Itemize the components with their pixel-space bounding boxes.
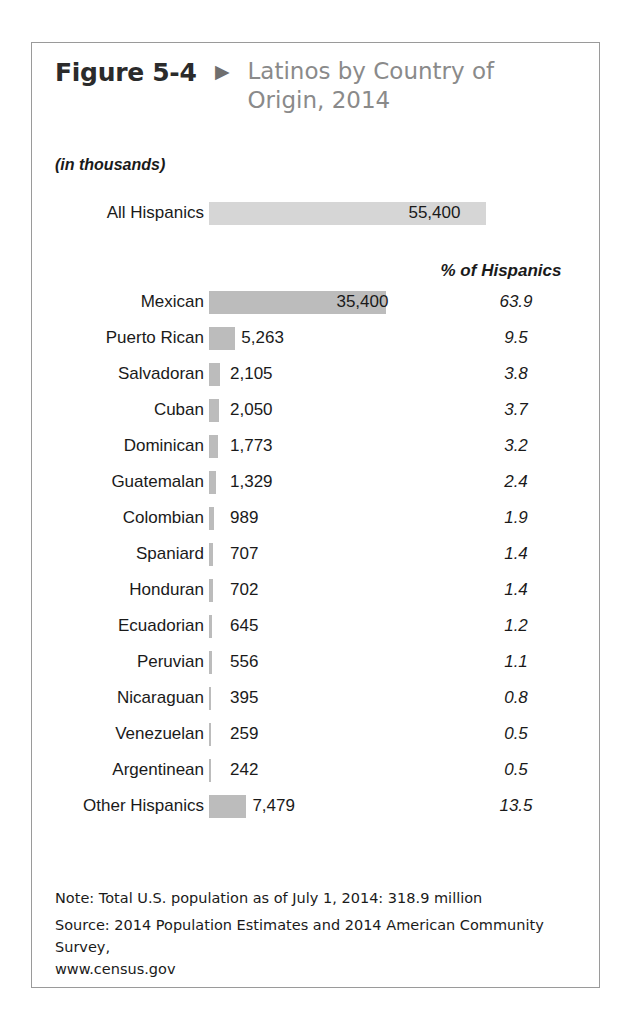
chart-row: Puerto Rican5,2639.5 (32, 323, 599, 353)
chart-row: Colombian9891.9 (32, 503, 599, 533)
row-value: 707 (230, 539, 258, 569)
row-bar (209, 363, 220, 386)
row-label: Guatemalan (32, 467, 204, 497)
footnote-source: Source: 2014 Population Estimates and 20… (55, 915, 579, 959)
row-label: Puerto Rican (32, 323, 204, 353)
row-value: 556 (230, 647, 258, 677)
row-bar (209, 687, 211, 710)
row-value: 55,400 (408, 198, 460, 228)
row-value: 1,329 (230, 467, 273, 497)
chart-row: Honduran7021.4 (32, 575, 599, 605)
chart-row: Ecuadorian6451.2 (32, 611, 599, 641)
row-pct: 3.7 (452, 395, 580, 425)
row-label: Spaniard (32, 539, 204, 569)
row-value: 989 (230, 503, 258, 533)
footnotes: Note: Total U.S. population as of July 1… (55, 888, 579, 986)
row-label: Argentinean (32, 755, 204, 785)
bar-chart: All Hispanics55,400Mexican35,40063.9Puer… (32, 43, 599, 987)
row-label: Other Hispanics (32, 791, 204, 821)
row-value: 35,400 (336, 287, 388, 317)
row-pct: 3.8 (452, 359, 580, 389)
row-bar (209, 723, 211, 746)
row-bar (209, 543, 213, 566)
row-value: 702 (230, 575, 258, 605)
row-value: 5,263 (241, 323, 284, 353)
chart-row: Guatemalan1,3292.4 (32, 467, 599, 497)
row-pct: 1.1 (452, 647, 580, 677)
row-label: Nicaraguan (32, 683, 204, 713)
row-pct: 3.2 (452, 431, 580, 461)
row-value: 242 (230, 755, 258, 785)
row-bar (209, 795, 246, 818)
row-label: All Hispanics (32, 198, 204, 228)
chart-row: Nicaraguan3950.8 (32, 683, 599, 713)
row-label: Dominican (32, 431, 204, 461)
chart-row: Spaniard7071.4 (32, 539, 599, 569)
footnote-source-url: www.census.gov (55, 959, 579, 981)
row-pct: 0.5 (452, 719, 580, 749)
row-bar (209, 471, 216, 494)
row-value: 1,773 (230, 431, 273, 461)
chart-row: Dominican1,7733.2 (32, 431, 599, 461)
row-pct: 1.9 (452, 503, 580, 533)
row-value: 2,050 (230, 395, 273, 425)
figure-frame: Figure 5-4 ▶ Latinos by Country of Origi… (31, 42, 600, 988)
chart-row: Other Hispanics7,47913.5 (32, 791, 599, 821)
row-value: 395 (230, 683, 258, 713)
row-value: 259 (230, 719, 258, 749)
chart-row: Peruvian5561.1 (32, 647, 599, 677)
row-label: Cuban (32, 395, 204, 425)
chart-row: Mexican35,40063.9 (32, 287, 599, 317)
row-bar (209, 507, 214, 530)
row-bar (209, 615, 212, 638)
row-pct: 1.2 (452, 611, 580, 641)
row-pct: 1.4 (452, 575, 580, 605)
row-pct: 0.5 (452, 755, 580, 785)
row-pct: 0.8 (452, 683, 580, 713)
row-bar (209, 579, 213, 602)
chart-row: Cuban2,0503.7 (32, 395, 599, 425)
row-label: Mexican (32, 287, 204, 317)
row-bar (209, 651, 212, 674)
row-label: Salvadoran (32, 359, 204, 389)
row-pct: 1.4 (452, 539, 580, 569)
row-pct: 2.4 (452, 467, 580, 497)
chart-row: Argentinean2420.5 (32, 755, 599, 785)
row-bar (209, 327, 235, 350)
footnote-note: Note: Total U.S. population as of July 1… (55, 888, 579, 910)
row-value: 645 (230, 611, 258, 641)
row-label: Honduran (32, 575, 204, 605)
row-label: Colombian (32, 503, 204, 533)
chart-row: Venezuelan2590.5 (32, 719, 599, 749)
row-label: Venezuelan (32, 719, 204, 749)
row-bar (209, 435, 218, 458)
row-value: 7,479 (252, 791, 295, 821)
chart-row: Salvadoran2,1053.8 (32, 359, 599, 389)
row-bar (209, 399, 219, 422)
chart-row: All Hispanics55,400 (32, 198, 599, 228)
row-pct: 9.5 (452, 323, 580, 353)
row-label: Peruvian (32, 647, 204, 677)
row-value: 2,105 (230, 359, 273, 389)
row-bar (209, 759, 211, 782)
row-label: Ecuadorian (32, 611, 204, 641)
row-pct: 13.5 (452, 791, 580, 821)
row-pct: 63.9 (452, 287, 580, 317)
